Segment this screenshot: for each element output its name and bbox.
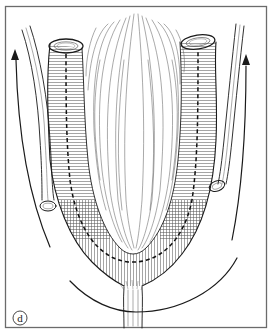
arrowhead-up-icon: [242, 54, 250, 65]
panel-label: d: [13, 311, 27, 325]
arrowhead-up-icon: [11, 49, 19, 60]
stem: [120, 280, 144, 328]
left-arrow: [11, 49, 50, 247]
right-arrow: [232, 54, 250, 240]
u-tube: [40, 33, 230, 290]
anatomical-figure: d: [0, 0, 273, 333]
panel-label-text: d: [17, 312, 23, 324]
